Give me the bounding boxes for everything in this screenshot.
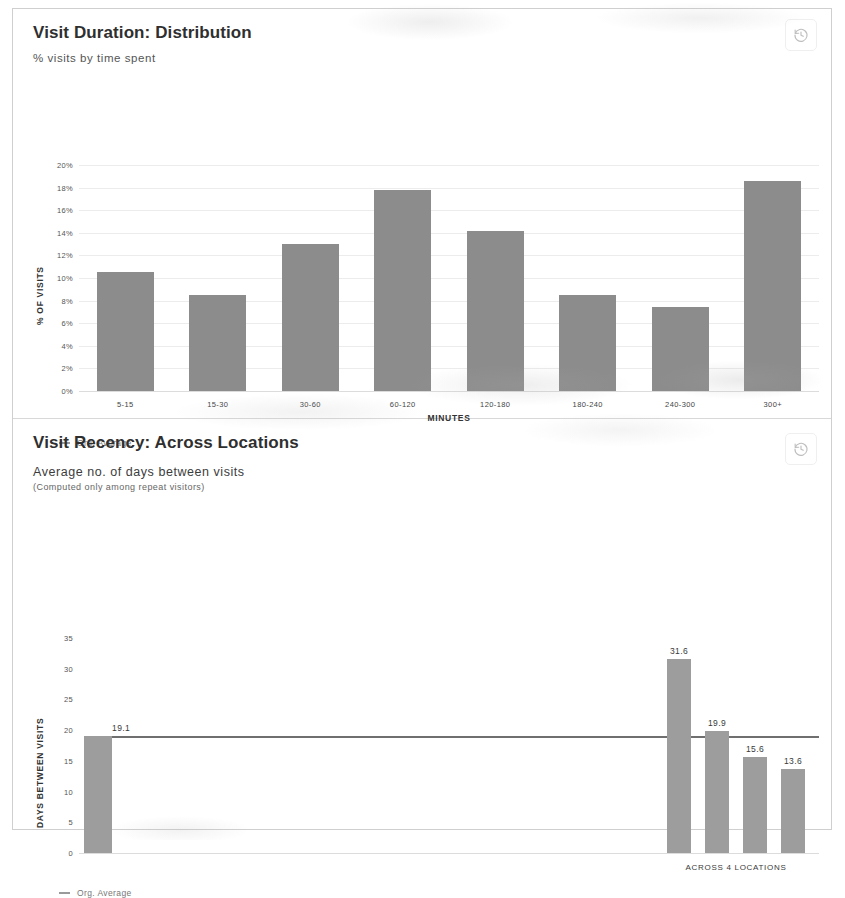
bar[interactable] — [744, 181, 801, 391]
bar-value-label: 19.9 — [708, 718, 726, 728]
y-axis-tick: 16% — [57, 206, 73, 215]
panel-visit-recency: Visit Recency: Across Locations Average … — [13, 419, 831, 829]
history-button-2[interactable] — [785, 433, 817, 465]
gridline — [79, 255, 819, 256]
y-axis-tick: 20 — [64, 726, 73, 735]
bar[interactable] — [282, 244, 339, 391]
y-axis-tick: 10% — [57, 274, 73, 283]
bar[interactable] — [374, 190, 431, 391]
bar-label-org-average: 19.1 — [112, 723, 130, 733]
y-axis-title-2: DAYS BETWEEN VISITS — [35, 718, 45, 828]
history-icon — [793, 27, 809, 43]
y-axis-tick: 30 — [64, 664, 73, 673]
y-axis-tick: 8% — [62, 296, 73, 305]
y-axis-tick: 4% — [62, 341, 73, 350]
baseline — [79, 853, 819, 854]
y-axis-title-1: % OF VISITS — [35, 266, 45, 325]
gridline — [79, 391, 819, 392]
x-axis-tick: 30-60 — [300, 400, 321, 409]
bar[interactable] — [705, 731, 729, 853]
x-axis-tick: 60-120 — [390, 400, 416, 409]
y-axis-tick: 20% — [57, 161, 73, 170]
bar-value-label: 15.6 — [746, 744, 764, 754]
gridline — [79, 278, 819, 279]
x-axis-tick: 5-15 — [117, 400, 134, 409]
bar[interactable] — [559, 295, 616, 391]
group-label: ACROSS 4 LOCATIONS — [686, 863, 787, 872]
gridline — [79, 188, 819, 189]
bar[interactable] — [97, 272, 154, 391]
legend-label-2: Org. Average — [77, 888, 132, 898]
x-axis-tick: 15-30 — [207, 400, 228, 409]
bar[interactable] — [667, 659, 691, 853]
gridline — [79, 165, 819, 166]
panel-visit-duration: Visit Duration: Distribution % visits by… — [13, 9, 831, 419]
panel-2-subtitle: Average no. of days between visits — [33, 465, 813, 479]
page-title: Visit Duration: Distribution — [33, 23, 813, 43]
bar-value-label: 13.6 — [784, 756, 802, 766]
bar[interactable] — [467, 231, 524, 391]
y-axis-tick: 12% — [57, 251, 73, 260]
x-axis-tick: 120-180 — [480, 400, 510, 409]
gridline — [79, 210, 819, 211]
bar[interactable] — [781, 769, 805, 853]
legend-2: Org. Average — [59, 888, 132, 898]
plot-area-1: % OF VISITS MINUTES 0%2%4%6%8%10%12%14%1… — [79, 165, 819, 391]
y-axis-tick: 5 — [69, 818, 73, 827]
panel-1-header: Visit Duration: Distribution % visits by… — [13, 9, 831, 64]
panel-2-title: Visit Recency: Across Locations — [33, 433, 813, 453]
y-axis-tick: 35 — [64, 634, 73, 643]
bar-value-label: 31.6 — [670, 646, 688, 656]
y-axis-tick: 18% — [57, 183, 73, 192]
bar[interactable] — [743, 757, 767, 853]
x-axis-tick: 300+ — [764, 400, 783, 409]
y-axis-tick: 14% — [57, 228, 73, 237]
y-axis-tick: 0 — [69, 849, 73, 858]
panel-2-header: Visit Recency: Across Locations Average … — [13, 419, 831, 492]
y-axis-tick: 6% — [62, 319, 73, 328]
x-axis-tick: 180-240 — [573, 400, 603, 409]
report-frame: Visit Duration: Distribution % visits by… — [12, 8, 832, 830]
legend-swatch-icon — [59, 892, 70, 894]
plot-area-2: DAYS BETWEEN VISITS 0510152025303519.131… — [79, 638, 819, 853]
y-axis-tick: 2% — [62, 364, 73, 373]
y-axis-tick: 15 — [64, 756, 73, 765]
history-button-1[interactable] — [785, 19, 817, 51]
gridline — [79, 233, 819, 234]
y-axis-tick: 25 — [64, 695, 73, 704]
y-axis-tick: 10 — [64, 787, 73, 796]
y-axis-tick: 0% — [62, 387, 73, 396]
bar[interactable] — [652, 307, 709, 391]
bar[interactable] — [189, 295, 246, 391]
panel-1-subtitle: % visits by time spent — [33, 52, 813, 64]
bar-org-average[interactable] — [84, 736, 112, 853]
history-icon — [793, 441, 809, 457]
panel-2-note: (Computed only among repeat visitors) — [33, 482, 813, 492]
x-axis-tick: 240-300 — [665, 400, 695, 409]
